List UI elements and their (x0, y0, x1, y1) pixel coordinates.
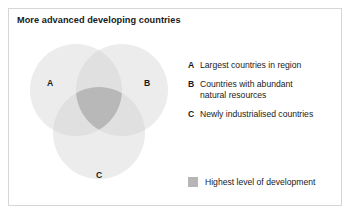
legend-list: A Largest countries in region B Countrie… (188, 60, 338, 127)
legend-item-b: B Countries with abundant natural resour… (188, 79, 338, 102)
highest-development-swatch (188, 177, 198, 187)
legend-item-c: C Newly industrialised countries (188, 109, 338, 121)
legend-key-a: A (188, 60, 200, 72)
legend-key-c: C (188, 109, 200, 121)
figure-container: More advanced developing countries (0, 0, 352, 215)
venn-label-a: A (47, 78, 53, 88)
legend-text-c: Newly industrialised countries (200, 109, 313, 121)
figure-title: More advanced developing countries (17, 15, 181, 25)
venn-diagram: A B C (19, 36, 179, 201)
swatch-legend-label: Highest level of development (205, 177, 315, 187)
legend-text-b: Countries with abundant natural resource… (200, 79, 293, 102)
legend-item-a: A Largest countries in region (188, 60, 338, 72)
venn-label-b: B (144, 78, 150, 88)
venn-label-c: C (96, 170, 102, 180)
swatch-legend: Highest level of development (188, 177, 315, 187)
legend-key-b: B (188, 79, 200, 91)
legend-text-a: Largest countries in region (200, 60, 301, 72)
